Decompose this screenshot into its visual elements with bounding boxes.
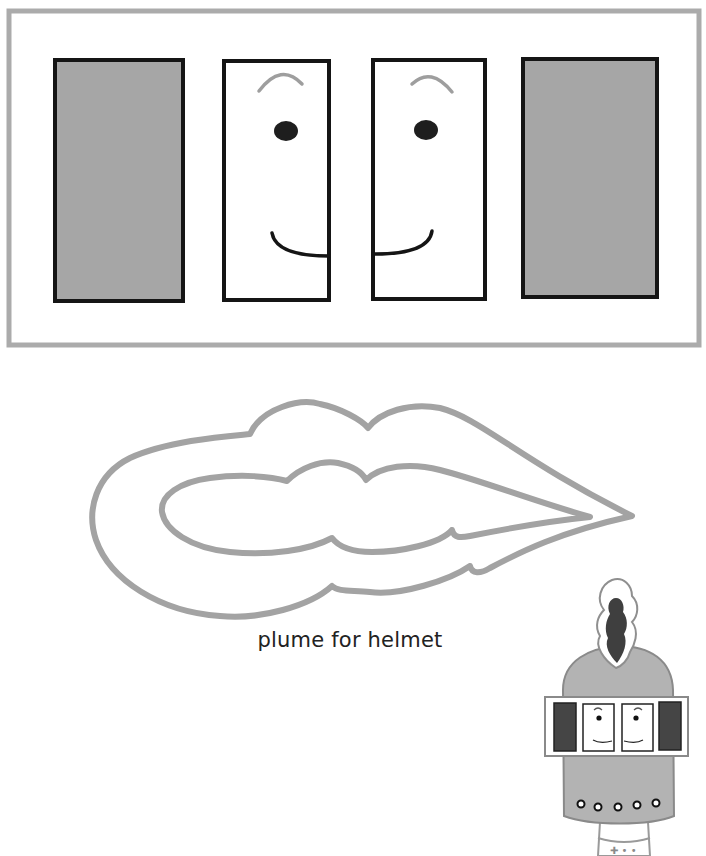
right-eye-panel (373, 60, 485, 299)
helmet-plume-icon (597, 579, 637, 668)
plume-outer-outline (92, 402, 632, 616)
svg-text:✚ • •: ✚ • • (610, 845, 637, 856)
neck-collar: ✚ • • (598, 822, 650, 856)
helmet-body (563, 646, 674, 824)
helmet-rivets (578, 800, 660, 811)
left-dark-panel (55, 60, 183, 301)
eye-icon (414, 120, 438, 140)
plume-inner-outline (162, 462, 590, 553)
helmet-visor (545, 697, 688, 756)
left-eye-panel (224, 61, 329, 300)
visor-template (0, 0, 706, 360)
right-dark-panel (523, 59, 657, 297)
eye-icon (274, 121, 298, 141)
plume-caption: plume for helmet (250, 628, 450, 652)
